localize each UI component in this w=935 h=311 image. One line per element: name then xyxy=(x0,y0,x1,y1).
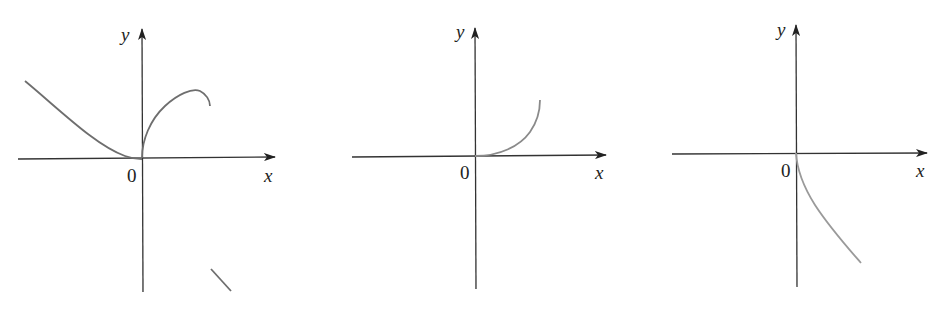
x-axis-label: x xyxy=(915,160,925,181)
y-axis-label: y xyxy=(454,21,465,42)
x-axis-label: x xyxy=(594,162,604,183)
right-curve xyxy=(142,90,210,158)
graph-3: y x 0 xyxy=(672,19,927,287)
x-axis xyxy=(672,153,927,154)
y-axis xyxy=(475,28,476,289)
figure-canvas: y x 0 y x 0 y x 0 xyxy=(0,0,935,311)
x-axis xyxy=(18,157,275,159)
curve xyxy=(796,153,861,263)
origin-label: 0 xyxy=(781,160,791,181)
curve xyxy=(475,100,540,156)
segment xyxy=(211,269,231,291)
graph-1: y x 0 xyxy=(18,24,275,292)
y-axis-label: y xyxy=(775,19,786,40)
origin-label: 0 xyxy=(127,165,137,186)
y-axis-label: y xyxy=(119,24,130,45)
y-axis xyxy=(142,29,143,292)
graph-2: y x 0 xyxy=(352,21,606,289)
left-curve xyxy=(25,81,142,159)
x-axis-label: x xyxy=(263,165,273,186)
origin-label: 0 xyxy=(460,162,470,183)
